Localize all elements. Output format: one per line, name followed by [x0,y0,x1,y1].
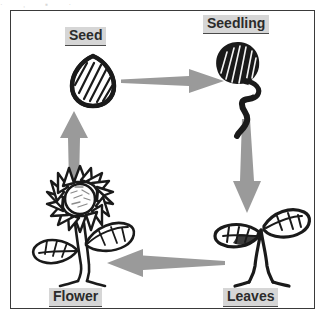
stage-flower[interactable]: Flower [21,161,156,306]
stage-label-seed: Seed [65,27,106,46]
seedling-icon [209,39,281,139]
stage-label-seedling: Seedling [203,15,269,34]
scan-artifact: · , ▪ · [0,0,330,9]
stage-leaves[interactable]: Leaves [201,196,316,311]
sunflower-icon [29,161,147,289]
stage-label-flower: Flower [49,288,102,307]
stage-label-leaves: Leaves [223,288,278,307]
leaves-plant-icon [209,196,314,288]
seed-icon [64,53,122,109]
life-cycle-diagram-frame: Seed Seedling [10,10,315,309]
stage-seedling[interactable]: Seedling [181,15,301,145]
stage-seed[interactable]: Seed [51,27,141,117]
